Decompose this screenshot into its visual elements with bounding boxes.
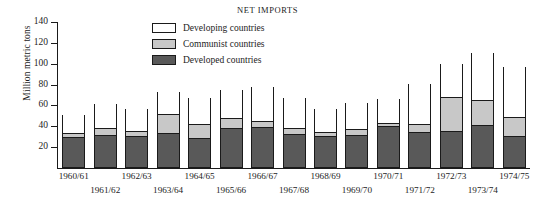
x-label-1973-74: 1973/74 xyxy=(456,185,510,195)
x-label-1965-66: 1965/66 xyxy=(204,185,258,195)
x-label-1969-70: 1969/70 xyxy=(330,185,384,195)
x-axis-labels: 1960/611961/621962/631963/641964/651965/… xyxy=(0,0,535,210)
x-label-1960-61: 1960/61 xyxy=(47,171,101,181)
chart-figure: NET IMPORTS Million metric tons 20406080… xyxy=(0,0,535,210)
x-label-1962-63: 1962/63 xyxy=(110,171,164,181)
x-label-1972-73: 1972/73 xyxy=(424,171,478,181)
x-label-1961-62: 1961/62 xyxy=(78,185,132,195)
x-label-1971-72: 1971/72 xyxy=(393,185,447,195)
x-label-1974-75: 1974/75 xyxy=(487,171,535,181)
x-label-1963-64: 1963/64 xyxy=(141,185,195,195)
x-label-1964-65: 1964/65 xyxy=(173,171,227,181)
x-label-1966-67: 1966/67 xyxy=(236,171,290,181)
x-label-1967-68: 1967/68 xyxy=(267,185,321,195)
x-label-1970-71: 1970/71 xyxy=(361,171,415,181)
x-label-1968-69: 1968/69 xyxy=(298,171,352,181)
